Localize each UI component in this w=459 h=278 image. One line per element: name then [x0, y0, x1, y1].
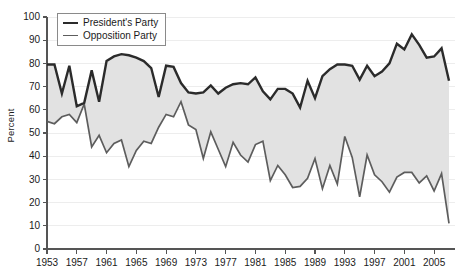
x-tick-label: 1961	[95, 257, 118, 268]
approval-gap-chart: Percent 0102030405060708090100 195319571…	[0, 0, 459, 278]
x-tick-label: 1965	[125, 257, 148, 268]
x-tick-label: 1993	[334, 257, 357, 268]
y-tick-label: 30	[29, 174, 41, 185]
x-tick-label: 2005	[423, 257, 446, 268]
x-tick-label: 1957	[66, 257, 89, 268]
x-tick-label: 1985	[274, 257, 297, 268]
y-tick-label: 10	[29, 220, 41, 231]
y-tick-label: 60	[29, 104, 41, 115]
x-tick-label: 1969	[155, 257, 178, 268]
y-tick-label: 40	[29, 150, 41, 161]
x-tick-label: 1997	[363, 257, 386, 268]
x-axis-tick-labels: 1953195719611965196919731977198119851989…	[36, 257, 446, 268]
chart-legend: President's Party Opposition Party	[57, 13, 166, 46]
legend-line-icon-opposition-party	[63, 35, 78, 36]
y-tick-label: 0	[34, 243, 40, 254]
x-tick-label: 2001	[393, 257, 416, 268]
y-tick-label: 20	[29, 197, 41, 208]
y-tick-label: 100	[23, 11, 40, 22]
legend-line-icon-presidents-party	[63, 22, 78, 24]
x-tick-label: 1977	[215, 257, 238, 268]
x-tick-label: 1989	[304, 257, 327, 268]
y-tick-label: 50	[29, 127, 41, 138]
x-tick-label: 1953	[36, 257, 59, 268]
legend-item-opposition-party: Opposition Party	[63, 30, 158, 43]
x-tick-label: 1981	[244, 257, 267, 268]
y-tick-label: 70	[29, 81, 41, 92]
y-axis-tick-labels: 0102030405060708090100	[23, 11, 40, 254]
y-tick-label: 90	[29, 34, 41, 45]
x-tick-label: 1973	[185, 257, 208, 268]
legend-item-presidents-party: President's Party	[63, 17, 158, 30]
x-axis-ticks	[47, 249, 434, 254]
legend-label-presidents-party: President's Party	[83, 17, 158, 30]
y-tick-label: 80	[29, 58, 41, 69]
legend-label-opposition-party: Opposition Party	[83, 30, 157, 43]
